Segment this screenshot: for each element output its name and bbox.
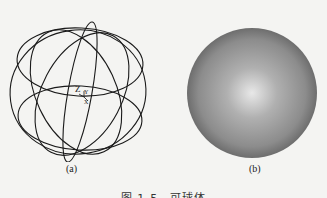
shaded-sphere [185, 22, 327, 164]
panel-a-label: (a) [66, 163, 77, 174]
panel-b-label: (b) [249, 163, 261, 174]
figure-caption: 图 1-5 可球体 [0, 189, 327, 198]
wireframe-sphere: Z Y X [0, 12, 160, 162]
axis-label-x: X [84, 99, 89, 105]
axis-label-y: Y [84, 89, 89, 95]
figure: Z Y X (a) (b) 图 1-5 可球体 [0, 0, 327, 198]
axis-label-z: Z [75, 84, 81, 94]
